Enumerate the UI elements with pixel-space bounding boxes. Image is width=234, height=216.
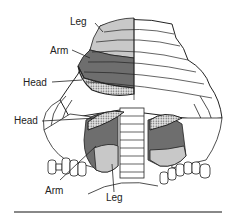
posterior-lobe [44,108,222,194]
label-arm-posterior: Arm [45,186,63,196]
label-head-posterior: Head [14,116,38,126]
vermis [120,108,144,178]
label-head-anterior: Head [23,78,47,88]
label-arm-anterior: Arm [50,46,68,56]
divider-rule [14,211,222,213]
cerebellum-somatotopy-diagram [0,0,234,216]
label-leg-anterior: Leg [70,17,87,27]
label-leg-posterior: Leg [106,193,123,203]
